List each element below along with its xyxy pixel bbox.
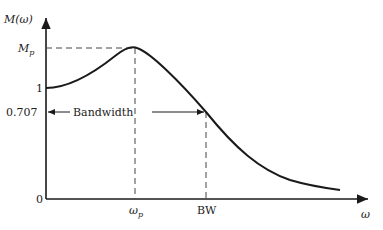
frequency-response-diagram: M(ω) Mp 1 0.707 0 Bandwidth ωp BW ω bbox=[0, 0, 383, 230]
p707-label: 0.707 bbox=[6, 106, 38, 119]
x-axis-label: ω bbox=[361, 208, 370, 221]
wp-label: ωp bbox=[129, 204, 143, 219]
one-label: 1 bbox=[36, 82, 43, 95]
zero-label: 0 bbox=[36, 193, 43, 206]
mp-label: Mp bbox=[17, 42, 34, 57]
y-axis-label: M(ω) bbox=[3, 13, 33, 26]
bw-label: BW bbox=[197, 204, 217, 217]
bandwidth-label: Bandwidth bbox=[73, 106, 133, 119]
